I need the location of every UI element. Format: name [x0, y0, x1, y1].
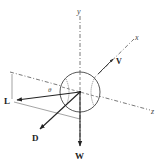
velocity-vector — [98, 59, 113, 74]
angle-theta-label: θ — [48, 86, 52, 94]
x-axis-label: x — [134, 33, 139, 42]
drag-label: D — [32, 133, 39, 143]
velocity-label: V — [116, 57, 122, 66]
z-axis-label: z — [150, 107, 155, 116]
weight-label: W — [75, 151, 84, 161]
lift-label: L — [4, 96, 10, 106]
y-axis-label: y — [76, 7, 81, 16]
baseball-force-diagram: y x z V L θ D W — [0, 0, 162, 164]
